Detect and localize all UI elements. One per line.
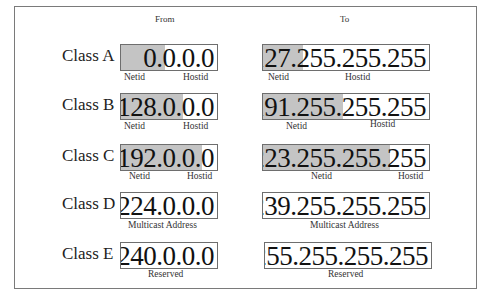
class-c-from-address: 192.0.0.0 (120, 144, 214, 171)
class-c-from-box: 192.0.0.0 (120, 144, 218, 171)
class-c-from-netid-caption: Netid (129, 171, 150, 181)
class-b-from-netid-caption: Netid (124, 121, 145, 131)
class-c-to-box: 223.255.255.255 (262, 144, 430, 171)
class-a-from-address: 0.0.0.0 (143, 44, 214, 71)
class-d-to-box: 239.255.255.255 (262, 192, 430, 219)
class-e-to-box: 255.255.255.255 (264, 242, 432, 269)
class-a-from-hostid-caption: Hostid (183, 72, 208, 82)
row-label-class-e: Class E (62, 244, 113, 264)
class-c-to-address: 223.255.255.255 (262, 144, 426, 171)
class-b-to-address: 191.255.255.255 (262, 93, 426, 120)
class-c-from-hostid-caption: Hostid (187, 171, 212, 181)
class-d-from-box: 224.0.0.0 (120, 192, 218, 219)
class-a-to-address: 127.255.255.255 (262, 44, 426, 71)
class-b-from-address: 128.0.0.0 (120, 93, 214, 120)
class-e-from-reserved-caption: Reserved (148, 269, 183, 279)
class-e-to-reserved-caption: Reserved (328, 269, 363, 279)
class-e-to-address: 255.255.255.255 (264, 242, 428, 269)
row-label-class-a: Class A (62, 46, 114, 66)
class-d-to-multicast-caption: Multicast Address (310, 220, 379, 230)
class-b-to-netid-caption: Netid (286, 121, 307, 131)
class-b-to-box: 191.255.255.255 (262, 93, 430, 120)
class-a-from-box: 0.0.0.0 (120, 44, 218, 71)
class-d-to-address: 239.255.255.255 (262, 192, 426, 219)
class-b-to-hostid-caption: Hostid (370, 119, 395, 129)
from-header: From (155, 14, 175, 24)
class-b-from-box: 128.0.0.0 (120, 93, 218, 120)
class-c-to-hostid-caption: Hostid (398, 171, 423, 181)
to-header: To (340, 14, 349, 24)
class-c-to-netid-caption: Netid (311, 171, 332, 181)
class-d-from-multicast-caption: Multicast Address (128, 220, 197, 230)
class-b-from-hostid-caption: Hostid (183, 121, 208, 131)
class-e-from-box: 240.0.0.0 (120, 242, 218, 269)
class-a-to-netid-caption: Netid (268, 72, 289, 82)
class-a-to-hostid-caption: Hostid (345, 72, 370, 82)
class-e-from-address: 240.0.0.0 (120, 242, 214, 269)
class-a-to-box: 127.255.255.255 (262, 44, 430, 71)
class-d-from-address: 224.0.0.0 (120, 192, 214, 219)
row-label-class-b: Class B (62, 95, 114, 115)
row-label-class-c: Class C (62, 146, 114, 166)
row-label-class-d: Class D (62, 194, 115, 214)
class-a-from-netid-caption: Netid (124, 72, 145, 82)
